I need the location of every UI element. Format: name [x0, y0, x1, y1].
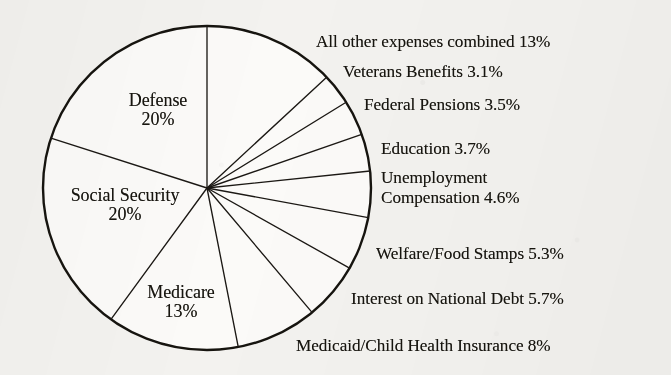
defense-label-percent: 20% [100, 110, 216, 129]
slice-label-defense: Defense 20% [100, 91, 216, 129]
social-security-label-name: Social Security [71, 185, 180, 205]
defense-label-name: Defense [129, 90, 188, 110]
slice-label-unemployment-compensation: Unemployment Compensation 4.6% [381, 168, 520, 208]
medicare-label-percent: 13% [120, 302, 242, 321]
unemployment-label-line-1: Unemployment [381, 168, 487, 187]
slice-label-welfare-food-stamps: Welfare/Food Stamps 5.3% [376, 245, 564, 263]
medicare-label-name: Medicare [147, 282, 215, 302]
slice-label-medicare: Medicare 13% [120, 283, 242, 321]
pie-chart-figure: All other expenses combined 13% Veterans… [0, 0, 671, 375]
slice-label-social-security: Social Security 20% [40, 186, 210, 224]
social-security-label-percent: 20% [40, 205, 210, 224]
slice-label-medicaid-child-health-insurance: Medicaid/Child Health Insurance 8% [296, 337, 551, 355]
slice-label-education: Education 3.7% [381, 140, 490, 158]
slice-label-veterans-benefits: Veterans Benefits 3.1% [343, 63, 503, 81]
slice-label-interest-on-national-debt: Interest on National Debt 5.7% [351, 290, 564, 308]
slice-label-federal-pensions: Federal Pensions 3.5% [364, 96, 520, 114]
slice-label-all-other-expenses: All other expenses combined 13% [316, 33, 550, 51]
unemployment-label-line-2: Compensation 4.6% [381, 188, 520, 207]
